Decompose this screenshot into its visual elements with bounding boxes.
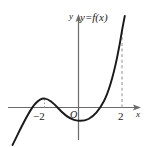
x-tick-label-2: 2: [118, 111, 124, 122]
origin-label: O: [70, 110, 77, 120]
function-label: y=f(x): [80, 12, 108, 23]
graph-figure: y x y=f(x) −2 O 2: [0, 0, 148, 147]
graph-canvas: [0, 0, 148, 147]
y-axis-label: y: [69, 12, 73, 21]
x-axis-label: x: [136, 110, 140, 119]
x-tick-label-neg2: −2: [33, 111, 45, 122]
function-curve: [13, 16, 125, 145]
